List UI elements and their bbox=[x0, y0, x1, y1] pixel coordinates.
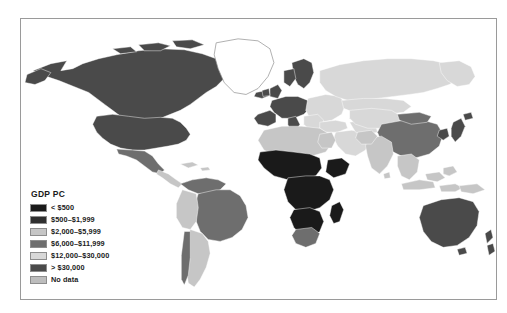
legend-swatch bbox=[30, 216, 47, 224]
legend-swatch bbox=[30, 204, 47, 212]
legend-label: < $500 bbox=[51, 203, 74, 212]
legend-item: No data bbox=[30, 274, 125, 285]
country-hispaniola bbox=[200, 167, 210, 171]
legend-item: $500–$1,999 bbox=[30, 214, 125, 225]
world-gdp-choropleth-figure: GDP PC < $500$500–$1,999$2,000–$5,999$6,… bbox=[0, 0, 507, 313]
legend-title: GDP PC bbox=[31, 189, 125, 199]
legend-item: > $30,000 bbox=[30, 262, 125, 273]
legend-label: > $30,000 bbox=[51, 263, 85, 272]
legend-item: $2,000–$5,999 bbox=[30, 226, 125, 237]
legend-label: No data bbox=[51, 275, 78, 284]
legend-label: $12,000–$30,000 bbox=[51, 251, 109, 260]
legend: GDP PC < $500$500–$1,999$2,000–$5,999$6,… bbox=[25, 185, 129, 291]
legend-label: $500–$1,999 bbox=[51, 215, 95, 224]
legend-swatch bbox=[30, 240, 47, 248]
legend-swatch bbox=[30, 276, 47, 284]
legend-label: $6,000–$11,999 bbox=[51, 239, 105, 248]
legend-swatch bbox=[30, 228, 47, 236]
legend-item: $6,000–$11,999 bbox=[30, 238, 125, 249]
legend-swatch bbox=[30, 252, 47, 260]
legend-item: < $500 bbox=[30, 202, 125, 213]
country-egypt bbox=[318, 132, 336, 148]
map-frame: GDP PC < $500$500–$1,999$2,000–$5,999$6,… bbox=[20, 18, 497, 300]
legend-item-list: < $500$500–$1,999$2,000–$5,999$6,000–$11… bbox=[30, 202, 125, 285]
legend-swatch bbox=[30, 264, 47, 272]
legend-label: $2,000–$5,999 bbox=[51, 227, 101, 236]
legend-item: $12,000–$30,000 bbox=[30, 250, 125, 261]
